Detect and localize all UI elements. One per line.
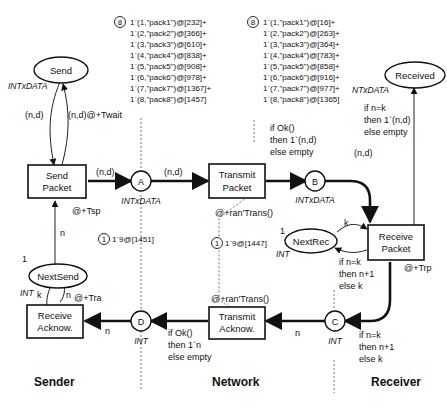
arc-receivepacket-to-nextrec [335, 248, 367, 252]
svg-text:Received: Received [395, 70, 435, 81]
svg-text:Send: Send [50, 65, 72, 76]
place-a-type: INTxDATA [121, 196, 161, 206]
svg-text:1`(8,"pack8")@[1457]: 1`(8,"pack8")@[1457] [130, 95, 207, 104]
transition-receive-packet[interactable]: Receive Packet [368, 225, 424, 260]
arc-label-nextsend-sp: n [60, 228, 65, 238]
section-label-sender: Sender [34, 375, 75, 389]
arc-label-d-to-ra: n [105, 326, 110, 336]
arc-label-rp-to-c-3: else k [359, 354, 383, 364]
marking-c: 1 1`9@[1447] [212, 238, 267, 249]
nextsend-initial: 1 [22, 254, 27, 264]
svg-text:1`9@[1447]: 1`9@[1447] [225, 239, 267, 248]
arc-label-ta-to-d-1: if Ok() [168, 328, 193, 338]
svg-text:NextRec: NextRec [293, 236, 330, 247]
arc-label-c-to-ta: n [295, 328, 300, 338]
transition-receive-acknow[interactable]: Receive Acknow. [27, 305, 83, 338]
svg-text:B: B [312, 177, 318, 187]
place-b[interactable]: B [305, 171, 325, 191]
svg-text:Acknow.: Acknow. [37, 322, 72, 333]
arc-label-sp-to-a: (n,d) [96, 167, 115, 177]
arc-label-rp-to-received-2: then 1`(n,d) [364, 115, 411, 125]
svg-text:1`(7,"pack7")@[1367]+: 1`(7,"pack7")@[1367]+ [130, 84, 212, 93]
arc-label-b-to-rp: (n,d) [354, 148, 373, 158]
svg-text:1`9@[1451]: 1`9@[1451] [112, 235, 154, 244]
arc-label-rp-to-c-1: if n=k [359, 330, 381, 340]
place-nextrec-type: INT [276, 249, 291, 259]
svg-text:Transmit: Transmit [219, 311, 256, 322]
arc-label-tp-to-b-2: then 1`(n,d) [270, 135, 317, 145]
svg-text:Send: Send [46, 170, 68, 181]
svg-text:Packet: Packet [381, 243, 410, 254]
place-nextsend-type: INT [20, 288, 35, 298]
section-label-receiver: Receiver [371, 375, 421, 389]
arc-label-ta-to-d-2: then 1`n [168, 340, 201, 350]
svg-text:Packet: Packet [222, 182, 251, 193]
petri-net-diagram: Send INTxDATA Received NTxDATA NextSend … [0, 0, 447, 407]
arc-label-rp-to-received-3: else empty [364, 127, 408, 137]
svg-text:1`(2,"pack2")@[366]+: 1`(2,"pack2")@[366]+ [130, 29, 207, 38]
svg-text:1`(3,"pack3")@[364]+: 1`(3,"pack3")@[364]+ [263, 40, 340, 49]
place-d[interactable]: D [131, 311, 151, 331]
svg-text:A: A [138, 177, 144, 187]
receivepacket-delay: @+Trp [404, 263, 432, 273]
arc-label-ta-to-d-3: else empty [168, 352, 212, 362]
transmitacknow-delay: @+ran'Trans() [211, 294, 269, 304]
marking-a: 8 1`(1,"pack1")@[232]+ 1`(2,"pack2")@[36… [115, 17, 212, 105]
arc-nextrec-to-receivepacket [337, 224, 367, 232]
svg-text:1`(2,"pack2")@[263]+: 1`(2,"pack2")@[263]+ [263, 29, 340, 38]
svg-text:1`(5,"pack5")@[858]+: 1`(5,"pack5")@[858]+ [263, 62, 340, 71]
arc-label-sp-to-send: (n,d)@+Twait [68, 110, 122, 120]
transmitpacket-delay: @+ran'Trans() [215, 208, 273, 218]
svg-text:1`(7,"pack7")@[977]+: 1`(7,"pack7")@[977]+ [263, 84, 340, 93]
svg-text:1`(1,"pack1")@[232]+: 1`(1,"pack1")@[232]+ [130, 18, 207, 27]
place-a[interactable]: A [131, 171, 151, 191]
nextrec-initial: 1 [280, 226, 285, 236]
svg-text:Acknow.: Acknow. [219, 323, 254, 334]
marking-b: 8 1`(1,"pack1")@[16]+ 1`(2,"pack2")@[263… [248, 17, 341, 105]
place-received[interactable]: Received [385, 62, 445, 88]
arc-label-a-to-tp: (n,d) [164, 167, 183, 177]
sendpacket-delay: @+Tsp [72, 206, 100, 216]
svg-text:1: 1 [215, 239, 220, 248]
svg-text:1`(1,"pack1")@[16]+: 1`(1,"pack1")@[16]+ [263, 18, 336, 27]
place-nextsend[interactable]: NextSend [29, 264, 87, 288]
transition-send-packet[interactable]: Send Packet [28, 165, 86, 198]
svg-text:1`(4,"pack4")@[783]+: 1`(4,"pack4")@[783]+ [263, 51, 340, 60]
place-send[interactable]: Send [34, 57, 88, 83]
svg-text:1`(5,"pack5")@[908]+: 1`(5,"pack5")@[908]+ [130, 62, 207, 71]
marking-d: 1 1`9@[1451] [99, 234, 154, 245]
arc-label-ra-nextsend-n: n [66, 290, 71, 300]
place-received-type: NTxDATA [352, 85, 389, 95]
arc-label-rp-to-received-1: if n=k [364, 103, 386, 113]
svg-text:1: 1 [102, 235, 107, 244]
svg-text:8: 8 [118, 18, 123, 27]
transition-transmit-acknow[interactable]: Transmit Acknow. [209, 307, 265, 339]
svg-text:Transmit: Transmit [219, 169, 256, 180]
arc-label-tp-to-b-3: else empty [270, 147, 314, 157]
svg-text:NextSend: NextSend [37, 271, 79, 282]
receiveacknow-delay: @+Tra [74, 293, 102, 303]
arc-label-tp-to-b-1: if Ok() [270, 123, 295, 133]
svg-text:1`(3,"pack3")@[610]+: 1`(3,"pack3")@[610]+ [130, 40, 207, 49]
place-send-type: INTxDATA [8, 81, 48, 91]
place-c-type: INT [328, 336, 343, 346]
svg-text:1`(6,"pack6")@[916]+: 1`(6,"pack6")@[916]+ [263, 73, 340, 82]
arc-label-rp-to-nextrec-2: then n+1 [339, 269, 374, 279]
arc-send-to-sendpacket [50, 82, 60, 165]
place-d-type: INT [134, 336, 149, 346]
svg-text:Receive: Receive [379, 231, 413, 242]
svg-text:D: D [138, 317, 145, 327]
svg-text:Receive: Receive [38, 310, 72, 321]
svg-text:Packet: Packet [42, 182, 71, 193]
arc-label-rp-to-nextrec-1: if n=k [339, 257, 361, 267]
place-nextrec[interactable]: NextRec [285, 229, 337, 253]
transition-transmit-packet[interactable]: Transmit Packet [209, 164, 265, 198]
svg-text:8: 8 [251, 18, 256, 27]
place-b-type: INTxDATA [295, 195, 335, 205]
arc-label-rp-to-c-2: then n+1 [359, 342, 394, 352]
svg-text:1`(8,"pack8")@[1365]: 1`(8,"pack8")@[1365] [263, 95, 340, 104]
svg-text:1`(6,"pack6")@[978]+: 1`(6,"pack6")@[978]+ [130, 73, 207, 82]
place-c[interactable]: C [325, 311, 345, 331]
arc-label-nextrec-to-rp: k [344, 218, 349, 228]
arc-sendpacket-to-send [62, 84, 68, 165]
